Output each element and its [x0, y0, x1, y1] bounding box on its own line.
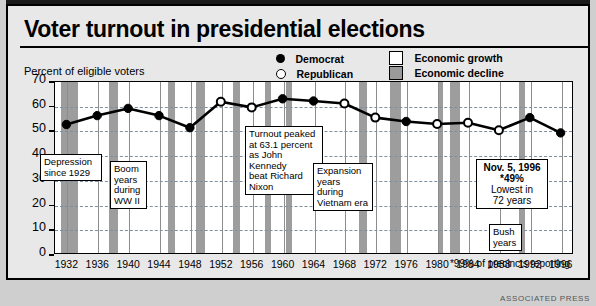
- data-point-republican: [340, 100, 348, 108]
- callout-expansion-l3: during: [317, 187, 369, 198]
- credit-line: ASSOCIATED PRESS: [0, 294, 590, 303]
- data-point-republican: [248, 103, 256, 111]
- callout-expansion-l4: Vietnam era: [317, 198, 369, 209]
- data-point-democrat: [278, 95, 286, 103]
- callout-expansion: Expansion years during Vietnam era: [313, 163, 373, 211]
- callout-peak: Turnout peaked at 63.1 percent as John K…: [245, 126, 323, 195]
- callout-peak-l4: beat Richard: [249, 171, 319, 182]
- callout-depression-l1: Depression: [44, 157, 98, 168]
- legend-item-growth: Economic growth: [389, 48, 503, 61]
- callout-boom: Boom years during WW II: [110, 161, 147, 209]
- callout-depression-l2: since 1929: [44, 168, 98, 179]
- data-point-republican: [464, 119, 472, 127]
- callout-1996-l4: 72 years: [480, 195, 544, 206]
- data-point-republican: [217, 98, 225, 106]
- data-point-democrat: [124, 104, 132, 112]
- y-axis-tick-label: 20: [8, 196, 46, 210]
- callout-1996: Nov. 5, 1996 *49% Lowest in 72 years: [476, 159, 548, 209]
- callout-1996-pct: *49%: [480, 173, 544, 184]
- legend-label-republican: Republican: [296, 68, 353, 80]
- y-axis-tick-label: 50: [8, 121, 46, 135]
- callout-expansion-l1: Expansion: [317, 166, 369, 177]
- callout-depression: Depression since 1929: [40, 154, 102, 181]
- data-point-democrat: [556, 129, 564, 137]
- callout-bush: Bush years: [489, 224, 522, 251]
- republican-marker-icon: [276, 69, 286, 79]
- y-axis-tick-label: 10: [8, 220, 46, 234]
- footnote: *99% of precincts reporting: [450, 258, 570, 269]
- y-axis-tick-mark: [49, 130, 54, 132]
- title-divider: [20, 46, 590, 48]
- data-point-democrat: [155, 111, 163, 119]
- data-point-democrat: [309, 97, 317, 105]
- data-point-republican: [495, 126, 503, 134]
- legend-item-republican: Republican: [276, 64, 353, 77]
- legend: Democrat Republican Economic growth Econ…: [276, 49, 576, 77]
- y-axis-tick-label: 70: [8, 72, 46, 86]
- y-axis-tick-label: 60: [8, 97, 46, 111]
- y-axis-tick-mark: [49, 254, 54, 256]
- y-axis-tick-mark: [49, 106, 54, 108]
- data-point-democrat: [186, 124, 194, 132]
- data-point-republican: [433, 120, 441, 128]
- callout-boom-l4: WW II: [114, 196, 143, 207]
- callout-peak-l1: Turnout peaked: [249, 129, 319, 140]
- y-axis-tick-mark: [49, 229, 54, 231]
- callout-boom-l1: Boom: [114, 164, 143, 175]
- y-axis-tick-label: 0: [8, 245, 46, 259]
- chart-frame: Voter turnout in presidential elections …: [6, 4, 590, 280]
- democrat-marker-icon: [276, 54, 285, 63]
- callout-1996-date: Nov. 5, 1996: [480, 162, 544, 173]
- callout-peak-l3: as John Kennedy: [249, 150, 319, 171]
- page-title: Voter turnout in presidential elections: [24, 16, 425, 43]
- data-point-democrat: [93, 111, 101, 119]
- data-point-democrat: [62, 120, 70, 128]
- data-point-republican: [371, 114, 379, 122]
- callout-boom-l3: during: [114, 185, 143, 196]
- y-axis-tick-mark: [49, 205, 54, 207]
- data-point-democrat: [402, 117, 410, 125]
- callout-bush-l1: Bush: [493, 227, 518, 238]
- decline-swatch-icon: [389, 66, 403, 80]
- chart-page: Voter turnout in presidential elections …: [0, 0, 596, 306]
- callout-1996-l3: Lowest in: [480, 184, 544, 195]
- y-axis-tick-mark: [49, 81, 54, 83]
- callout-bush-l2: years: [493, 238, 518, 249]
- data-point-democrat: [526, 113, 534, 121]
- legend-item-decline: Economic decline: [389, 63, 504, 76]
- legend-label-decline: Economic decline: [414, 67, 503, 79]
- callout-peak-l5: Nixon: [249, 182, 319, 193]
- legend-item-democrat: Democrat: [276, 49, 344, 62]
